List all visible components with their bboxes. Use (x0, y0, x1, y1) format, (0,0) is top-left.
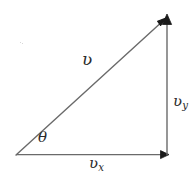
vector-vy-label-base: ʋ (173, 92, 182, 110)
vector-vy (162, 14, 171, 155)
vector-diagram-figure: ʋ ʋy ʋx θ (0, 0, 196, 177)
scan-speckle (20, 42, 21, 43)
scan-speckle (22, 43, 23, 44)
vector-v-label: ʋ (82, 51, 92, 68)
angle-theta-label: θ (38, 130, 47, 145)
vector-vy-label-subscript: y (182, 100, 188, 111)
vector-vx-label-base: ʋ (89, 154, 98, 172)
vector-vx-label: ʋx (89, 156, 104, 173)
vector-vx-arrowhead (161, 151, 170, 159)
vector-diagram-canvas (0, 0, 196, 177)
vector-vy-label: ʋy (173, 94, 188, 111)
vector-vx-label-subscript: x (98, 162, 104, 173)
